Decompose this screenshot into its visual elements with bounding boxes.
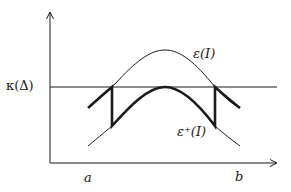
- epsilon-label: ε(I): [193, 47, 215, 60]
- diagram-canvas: [0, 0, 291, 192]
- diagram-figure: κ(Δ) ε(I) ε⁺(I) a b: [0, 0, 291, 192]
- epsilon-plus-label: ε⁺(I): [177, 125, 206, 138]
- b-tick-label: b: [235, 170, 243, 183]
- kappa-label: κ(Δ): [6, 79, 34, 92]
- a-tick-label: a: [84, 171, 92, 184]
- thick-piecewise-curve: [88, 87, 240, 126]
